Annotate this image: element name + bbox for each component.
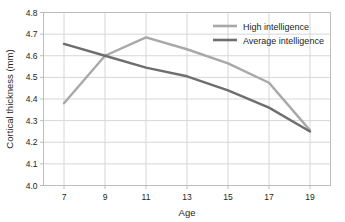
- x-axis-label: Age: [179, 207, 196, 218]
- y-tick-label: 4.7: [26, 29, 38, 39]
- y-tick-label: 4.1: [26, 159, 38, 169]
- x-tick-label: 19: [305, 192, 315, 202]
- y-tick-label: 4.5: [26, 72, 38, 82]
- legend-label: High intelligence: [243, 22, 309, 32]
- y-axis-label: Cortical thickness (mm): [4, 49, 15, 148]
- x-tick-label: 13: [182, 192, 192, 202]
- x-tick-label: 9: [103, 192, 108, 202]
- y-tick-label: 4.0: [26, 181, 38, 191]
- y-tick-label: 4.4: [26, 94, 38, 104]
- chart-container: 4.04.14.24.34.44.54.64.74.8 791113151719…: [0, 0, 345, 222]
- x-tick-label: 11: [142, 192, 151, 202]
- x-tick-label: 7: [62, 192, 67, 202]
- y-tick-label: 4.2: [26, 137, 38, 147]
- y-tick-label: 4.6: [26, 51, 38, 61]
- x-tick-label: 17: [264, 192, 274, 202]
- x-tick-label: 15: [223, 192, 233, 202]
- line-chart: 4.04.14.24.34.44.54.64.74.8 791113151719…: [0, 0, 345, 222]
- y-tick-label: 4.3: [26, 116, 38, 126]
- legend-label: Average intelligence: [243, 36, 324, 46]
- y-tick-label: 4.8: [26, 8, 38, 18]
